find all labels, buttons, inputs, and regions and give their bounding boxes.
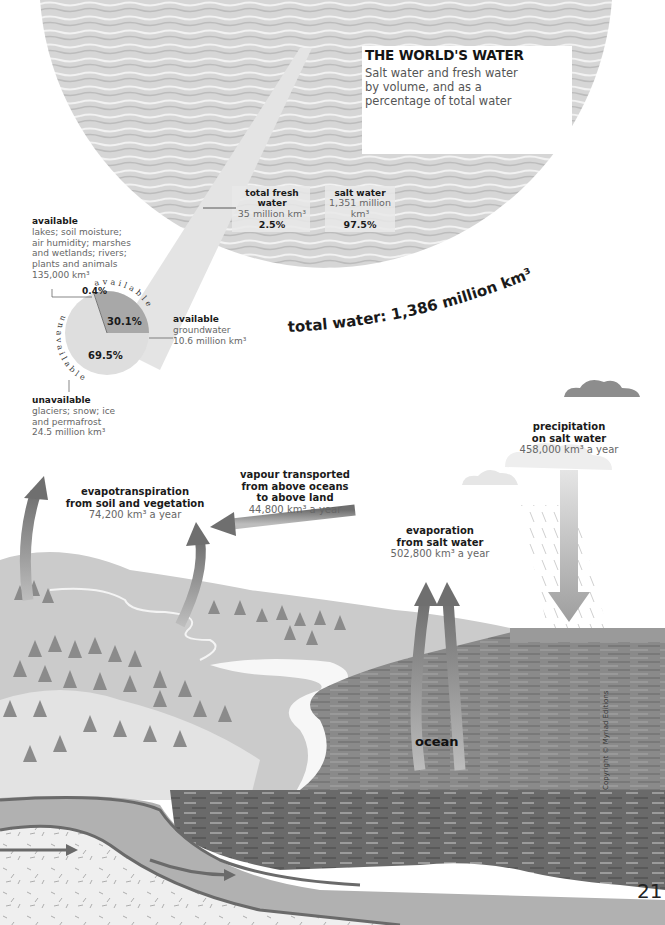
vapour-transport-label: vapour transported from above oceans to … xyxy=(230,469,360,515)
evapotranspiration-arrowhead xyxy=(24,476,48,500)
copyright-notice: Copyright © Myriad Editions xyxy=(602,691,610,790)
total-water-label: total water: 1,386 million km³ xyxy=(287,264,534,336)
evapotranspiration-label: evapotranspiration from soil and vegetat… xyxy=(60,486,210,521)
unavailable-label: unavailable glaciers; snow; ice and perm… xyxy=(32,395,115,438)
groundwater-label: available groundwater 10.6 million km³ xyxy=(173,314,246,346)
page-subtitle: Salt water and fresh water by volume, an… xyxy=(365,66,565,108)
page-number: 21 xyxy=(637,880,662,903)
ocean-label: ocean xyxy=(415,735,458,750)
ocean-horizon xyxy=(510,628,665,642)
title-block: THE WORLD'S WATER Salt water and fresh w… xyxy=(365,48,565,108)
fresh-water-label: total fresh water 35 million km³ 2.5% xyxy=(234,188,310,231)
groundwater-pct: 30.1% xyxy=(107,316,142,328)
page-title: THE WORLD'S WATER xyxy=(365,48,565,64)
light-cloud-small-icon xyxy=(462,470,518,485)
rain-cloud-icon xyxy=(564,380,640,397)
available-surface-pct: 0.4% xyxy=(82,286,107,296)
precipitation-label: precipitation on salt water 458,000 km³ … xyxy=(510,421,628,456)
unavailable-pct: 69.5% xyxy=(88,350,123,362)
available-surface-label: available lakes; soil moisture; air humi… xyxy=(32,216,142,281)
salt-water-label: salt water 1,351 million km³ 97.5% xyxy=(322,188,398,231)
evaporation-label: evaporation from salt water 502,800 km³ … xyxy=(380,525,500,560)
water-cycle-illustration: available unavailable total water: 1,386… xyxy=(0,0,665,925)
